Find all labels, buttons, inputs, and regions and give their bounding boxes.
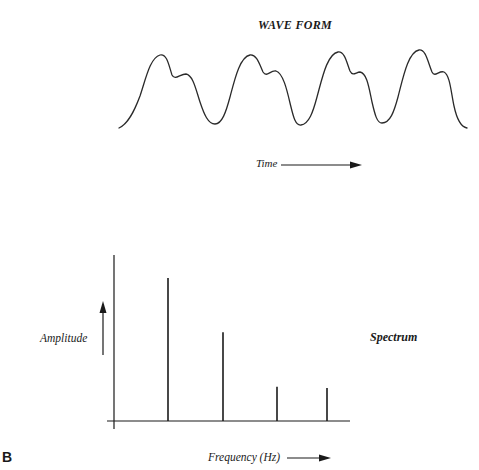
spectrum-title: Spectrum xyxy=(370,330,417,345)
panel-letter: B xyxy=(2,449,12,465)
waveform-curve xyxy=(119,50,467,128)
figure-canvas xyxy=(0,0,479,470)
time-arrow-head xyxy=(350,162,362,169)
amplitude-arrow-head xyxy=(100,301,107,313)
spectrum-bars xyxy=(168,278,327,421)
amplitude-axis-label: Amplitude xyxy=(40,332,87,344)
waveform-title: WAVE FORM xyxy=(0,18,479,33)
waveform-title-text: WAVE FORM xyxy=(258,18,332,33)
frequency-arrow-head xyxy=(319,455,331,462)
frequency-axis-label: Frequency (Hz) xyxy=(208,451,280,463)
time-axis-label: Time xyxy=(256,157,277,169)
